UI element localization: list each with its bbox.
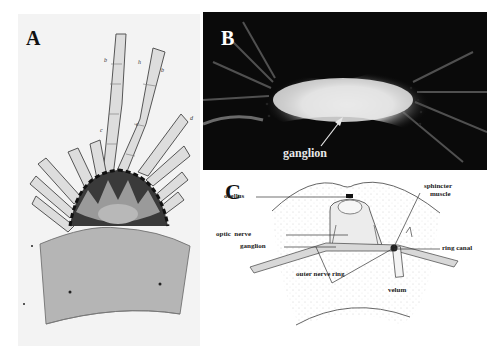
label-outer-nerve-ring: outer nerve ring: [296, 271, 344, 278]
panel-label-a: A: [26, 28, 40, 48]
label-velum: velum: [388, 287, 406, 294]
label-sphincter: sphincter: [424, 183, 452, 190]
label-ring-canal: ring canal: [442, 245, 472, 252]
panel-a-drawing: bhb ccd: [18, 14, 200, 346]
svg-text:c: c: [100, 127, 103, 133]
panel-label-b: B: [221, 28, 234, 48]
svg-text:h: h: [138, 59, 141, 65]
panel-a: bhb ccd A: [18, 14, 200, 346]
label-optic-nerve: optic nerve: [216, 231, 251, 238]
label-muscle: muscle: [430, 191, 451, 198]
svg-text:b: b: [161, 67, 164, 73]
svg-text:c: c: [136, 121, 139, 127]
label-ganglion-b: ganglion: [283, 146, 327, 161]
panel-c: C ocellus optic nerve ganglion outer ner…: [220, 175, 487, 356]
svg-text:d: d: [190, 115, 194, 121]
label-ocellus: ocellus: [224, 193, 244, 200]
panel-c-schematic: [220, 175, 487, 356]
label-ganglion-c: ganglion: [240, 243, 266, 250]
svg-text:b: b: [104, 57, 107, 63]
panel-b: B ganglion: [203, 12, 487, 170]
panel-b-micrograph: [203, 12, 487, 170]
